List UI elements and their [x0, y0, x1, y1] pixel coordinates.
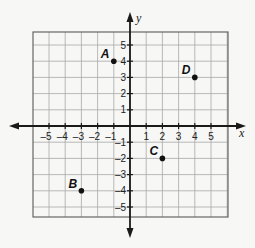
x-tick-label: –3 [73, 131, 85, 142]
point-c [160, 156, 166, 162]
x-tick-label: 4 [192, 131, 198, 142]
x-tick-label: 2 [160, 131, 166, 142]
x-axis-label: x [238, 126, 245, 140]
x-tick-label: –5 [40, 131, 52, 142]
point-a [111, 58, 117, 64]
y-tick-label: 3 [120, 72, 126, 83]
y-tick-label: 1 [120, 104, 126, 115]
point-label-d: D [182, 63, 191, 77]
point-b [79, 188, 85, 194]
y-tick-label: 4 [120, 56, 126, 67]
x-tick-label: –4 [57, 131, 69, 142]
x-tick-label: 5 [208, 131, 214, 142]
y-tick-label: –4 [115, 185, 127, 196]
x-tick-label: 3 [176, 131, 182, 142]
x-tick-label: –2 [89, 131, 101, 142]
y-tick-label: 5 [120, 40, 126, 51]
y-tick-label: –3 [115, 169, 127, 180]
point-d [192, 75, 198, 81]
point-label-c: C [149, 144, 158, 158]
y-tick-label: 2 [120, 88, 126, 99]
coordinate-plane: –5–4–3–2–11234554321–1–2–3–4–5 ABCD x y [0, 0, 255, 248]
point-label-a: A [100, 47, 110, 61]
y-tick-label: –1 [115, 137, 127, 148]
point-label-b: B [68, 177, 77, 191]
x-axis-arrow-left-icon [9, 123, 19, 130]
y-axis-label: y [135, 11, 142, 25]
y-axis-arrow-down-icon [127, 228, 134, 238]
x-tick-label: 1 [143, 131, 149, 142]
y-axis-arrow-up-icon [127, 12, 134, 22]
y-tick-label: –5 [115, 202, 127, 213]
y-tick-label: –2 [115, 153, 127, 164]
